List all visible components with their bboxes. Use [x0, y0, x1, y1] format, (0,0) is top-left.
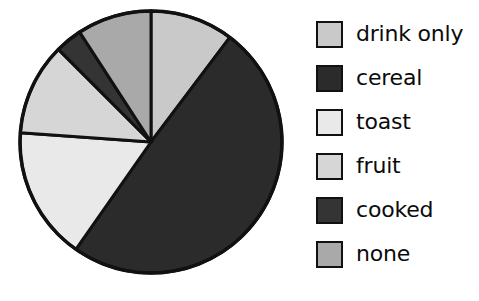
pie-chart-svg — [0, 0, 300, 301]
legend-item-none[interactable]: none — [316, 232, 476, 276]
legend-item-toast[interactable]: toast — [316, 100, 476, 144]
chart-screenshot: drink only cereal toast fruit cooked non… — [0, 0, 479, 301]
legend-swatch-cooked — [316, 197, 343, 224]
pie-chart-area — [0, 0, 300, 301]
legend-swatch-drink-only — [316, 21, 343, 48]
legend-label-drink-only: drink only — [356, 22, 463, 46]
legend-item-cooked[interactable]: cooked — [316, 188, 476, 232]
legend-label-fruit: fruit — [356, 154, 400, 178]
legend-swatch-toast — [316, 109, 343, 136]
legend-label-none: none — [356, 242, 410, 266]
legend-item-cereal[interactable]: cereal — [316, 56, 476, 100]
legend-item-drink-only[interactable]: drink only — [316, 12, 476, 56]
legend-swatch-none — [316, 241, 343, 268]
legend-item-fruit[interactable]: fruit — [316, 144, 476, 188]
legend-label-cooked: cooked — [356, 198, 433, 222]
chart-legend: drink only cereal toast fruit cooked non… — [316, 12, 476, 292]
legend-swatch-cereal — [316, 65, 343, 92]
legend-label-cereal: cereal — [356, 66, 422, 90]
legend-swatch-fruit — [316, 153, 343, 180]
legend-label-toast: toast — [356, 110, 411, 134]
